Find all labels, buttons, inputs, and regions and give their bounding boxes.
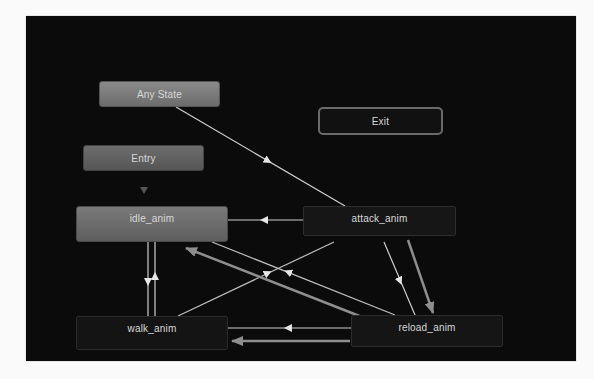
state-label: Any State [137, 89, 182, 100]
state-walk-anim[interactable]: walk_anim [76, 316, 228, 350]
state-label: idle_anim [130, 213, 175, 224]
state-label: Entry [131, 153, 155, 164]
state-reload-anim[interactable]: reload_anim [351, 315, 503, 347]
state-label: Exit [372, 116, 389, 127]
state-exit[interactable]: Exit [318, 107, 443, 135]
state-label: reload_anim [398, 322, 455, 333]
state-idle-anim[interactable]: idle_anim [76, 206, 228, 242]
state-attack-anim[interactable]: attack_anim [303, 206, 456, 236]
state-label: attack_anim [351, 213, 407, 224]
state-entry[interactable]: Entry [83, 145, 204, 171]
state-any-state[interactable]: Any State [99, 81, 220, 107]
animator-graph-canvas[interactable] [26, 16, 576, 361]
state-label: walk_anim [127, 323, 176, 334]
